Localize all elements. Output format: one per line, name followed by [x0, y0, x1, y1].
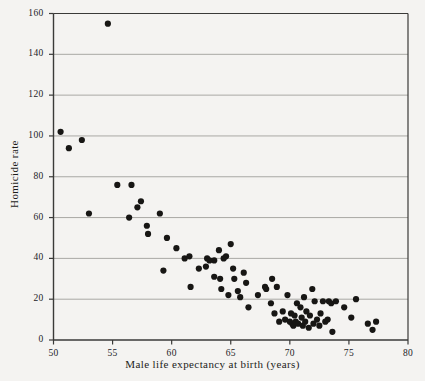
x-axis-label: Male life expectancy at birth (years): [0, 358, 425, 370]
data-point: [369, 327, 375, 333]
x-tick-label: 65: [214, 348, 248, 358]
data-point: [218, 286, 224, 292]
y-tick-label: 60: [10, 212, 44, 222]
data-point: [348, 314, 354, 320]
x-tick-label: 55: [96, 348, 130, 358]
data-point: [365, 321, 371, 327]
data-point: [164, 235, 170, 241]
data-point: [269, 276, 275, 282]
y-tick-label: 100: [10, 130, 44, 140]
data-point: [217, 276, 223, 282]
data-point: [211, 257, 217, 263]
data-point: [230, 265, 236, 271]
y-tick-label: 80: [10, 171, 44, 181]
data-point: [297, 304, 303, 310]
data-point: [284, 292, 290, 298]
data-point: [243, 280, 249, 286]
data-point: [255, 292, 261, 298]
data-point: [134, 204, 140, 210]
y-tick-label: 20: [10, 293, 44, 303]
data-point: [329, 329, 335, 335]
data-point: [187, 284, 193, 290]
data-point: [160, 268, 166, 274]
data-point: [301, 294, 307, 300]
data-point: [157, 210, 163, 216]
x-tick-label: 70: [273, 348, 307, 358]
data-point: [223, 253, 229, 259]
data-point: [128, 182, 134, 188]
data-point: [316, 323, 322, 329]
x-tick-label: 80: [391, 348, 425, 358]
data-point: [203, 263, 209, 269]
data-point: [114, 182, 120, 188]
data-point: [325, 316, 331, 322]
data-point: [145, 231, 151, 237]
data-point: [231, 276, 237, 282]
data-point: [320, 298, 326, 304]
data-point: [237, 294, 243, 300]
data-point: [280, 308, 286, 314]
data-point: [105, 21, 111, 27]
x-tick-label: 50: [37, 348, 71, 358]
data-point: [373, 319, 379, 325]
data-point: [138, 198, 144, 204]
data-point: [309, 286, 315, 292]
x-tick-label: 75: [332, 348, 366, 358]
data-point: [86, 210, 92, 216]
data-point: [144, 223, 150, 229]
data-point: [216, 247, 222, 253]
data-point: [196, 265, 202, 271]
data-point: [274, 284, 280, 290]
data-point: [314, 316, 320, 322]
data-point: [186, 253, 192, 259]
data-point: [317, 310, 323, 316]
data-point: [268, 300, 274, 306]
data-point: [66, 145, 72, 151]
data-point: [235, 288, 241, 294]
data-point: [57, 129, 63, 135]
data-point: [225, 292, 231, 298]
data-point: [333, 298, 339, 304]
data-point: [341, 304, 347, 310]
data-point: [291, 312, 297, 318]
data-point: [211, 274, 217, 280]
y-tick-label: 140: [10, 48, 44, 58]
data-point: [263, 286, 269, 292]
y-tick-label: 40: [10, 252, 44, 262]
data-point: [228, 241, 234, 247]
data-point: [126, 214, 132, 220]
y-tick-label: 0: [10, 334, 44, 344]
data-point: [306, 325, 312, 331]
y-tick-label: 160: [10, 8, 44, 18]
data-point: [307, 312, 313, 318]
data-point: [353, 296, 359, 302]
data-point: [241, 270, 247, 276]
scatter-plot-figure: [0, 0, 425, 381]
figure-background: [0, 0, 425, 381]
data-point: [271, 310, 277, 316]
data-point: [312, 298, 318, 304]
data-point: [79, 137, 85, 143]
y-tick-label: 120: [10, 89, 44, 99]
data-point: [276, 319, 282, 325]
x-tick-label: 60: [155, 348, 189, 358]
data-point: [245, 304, 251, 310]
data-point: [302, 319, 308, 325]
data-point: [173, 245, 179, 251]
